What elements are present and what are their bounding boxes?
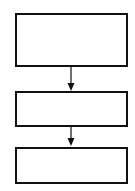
arrowhead-icon (68, 83, 75, 91)
flow-box-1 (16, 14, 127, 66)
arrowhead-icon (68, 138, 75, 146)
flowchart (0, 0, 135, 191)
flow-box-3 (16, 148, 127, 183)
flow-box-2 (16, 92, 127, 126)
